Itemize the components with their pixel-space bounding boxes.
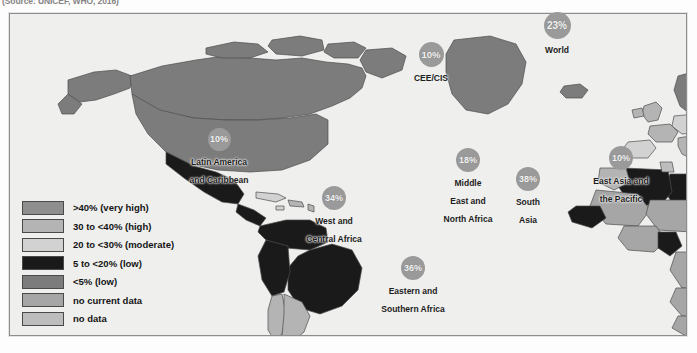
- callout-value-south-asia: 38%: [516, 167, 540, 191]
- country-tunisia: [660, 162, 674, 172]
- legend-swatch-very-high: [22, 201, 64, 215]
- legend-item-moderate[interactable]: 20 to <30% (moderate): [22, 236, 174, 253]
- callout-label-world: World: [545, 45, 569, 55]
- callout-label-latin-america-caribbean: Latin America and Caribbean: [189, 157, 248, 185]
- source-caption: (Source: UNICEF, WHO, 2016): [2, 0, 119, 6]
- legend-item-no-data[interactable]: no data: [22, 310, 174, 327]
- legend-item-high[interactable]: 30 to <40% (high): [22, 218, 174, 235]
- callout-label-cee-cis: CEE/CIS: [414, 73, 448, 83]
- legend-label-high: 30 to <40% (high): [73, 221, 151, 232]
- callout-label-west-central-africa: West and Central Africa: [306, 216, 361, 244]
- legend-label-moderate: 20 to <30% (moderate): [73, 239, 174, 250]
- callout-label-east-asia-pacific: East Asia and the Pacific: [593, 176, 648, 204]
- callout-value-eastern-southern-africa: 36%: [401, 256, 425, 280]
- callout-east-asia-pacific[interactable]: 10% East Asia and the Pacific: [585, 146, 657, 206]
- legend-swatch-very-low: [22, 275, 64, 289]
- callout-value-middle-east-north-africa: 18%: [456, 148, 480, 172]
- callout-label-middle-east-north-africa: Middle East and North Africa: [444, 178, 493, 224]
- callout-value-cee-cis: 10%: [419, 42, 444, 67]
- legend-label-low: 5 to <20% (low): [73, 258, 142, 269]
- callout-value-world: 23%: [544, 12, 571, 39]
- callout-eastern-southern-africa[interactable]: 36% Eastern and Southern Africa: [372, 256, 454, 316]
- callout-latin-america-caribbean[interactable]: 10% Latin America and Caribbean: [180, 128, 258, 187]
- legend-label-no-current-data: no current data: [73, 295, 142, 306]
- callout-cee-cis[interactable]: 10% CEE/CIS: [401, 42, 461, 85]
- callout-value-latin-america-caribbean: 10%: [208, 128, 231, 151]
- callout-label-eastern-southern-africa: Eastern and Southern Africa: [381, 286, 444, 314]
- legend-item-no-current-data[interactable]: no current data: [22, 292, 174, 309]
- callout-label-south-asia: South Asia: [516, 197, 540, 225]
- legend-swatch-low: [22, 256, 64, 270]
- legend-item-very-high[interactable]: >40% (very high): [22, 199, 174, 216]
- callout-value-west-central-africa: 34%: [322, 186, 346, 210]
- country-ireland: [632, 108, 644, 118]
- island-jamaica: [276, 206, 284, 210]
- legend-swatch-high: [22, 219, 64, 233]
- legend-label-no-data: no data: [73, 313, 107, 324]
- legend-swatch-no-current-data: [22, 293, 64, 307]
- figure-root: (Source: UNICEF, WHO, 2016) .c0{fill:#8e…: [0, 0, 697, 353]
- legend-label-very-high: >40% (very high): [73, 202, 149, 213]
- callout-world[interactable]: 23% World: [529, 12, 585, 57]
- callout-south-asia[interactable]: 38% South Asia: [505, 147, 551, 227]
- legend-swatch-no-data: [22, 312, 64, 326]
- legend-swatch-moderate: [22, 238, 64, 252]
- map-legend: >40% (very high) 30 to <40% (high) 20 to…: [22, 199, 174, 329]
- source-caption-text: (Source: UNICEF, WHO, 2016): [2, 0, 119, 6]
- legend-label-very-low: <5% (low): [73, 276, 117, 287]
- callout-value-east-asia-pacific: 10%: [609, 146, 633, 170]
- legend-item-low[interactable]: 5 to <20% (low): [22, 255, 174, 272]
- callout-middle-east-north-africa[interactable]: 18% Middle East and North Africa: [431, 148, 505, 226]
- legend-item-very-low[interactable]: <5% (low): [22, 273, 174, 290]
- callout-west-central-africa[interactable]: 34% West and Central Africa: [298, 186, 370, 246]
